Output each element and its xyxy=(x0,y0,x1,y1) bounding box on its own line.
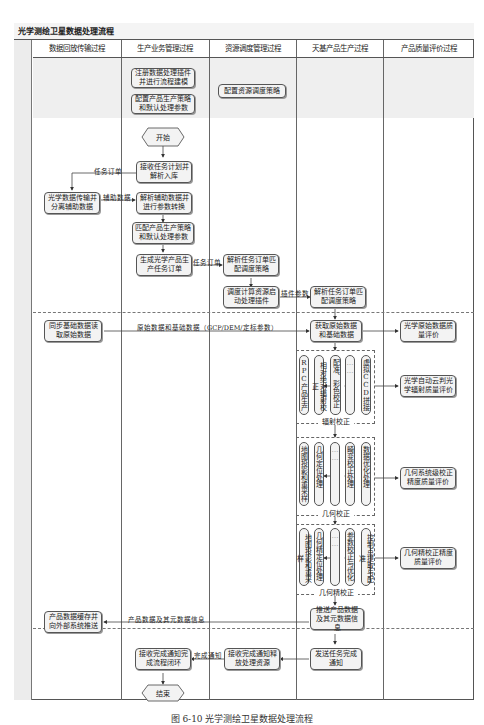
group-step: 畸变校正处理 xyxy=(345,442,355,506)
radiometric-group-label: 辐射校正 xyxy=(318,416,354,425)
eval-raw-step: 光学原始数据质量评价 xyxy=(400,320,456,342)
config-strategy-step: 配置产品生产策略和默认处理参数 xyxy=(131,94,195,114)
push-product-step: 推送产品数据及其元数据信息 xyxy=(310,608,364,630)
get-raw-step: 获取原始数据和基础数据 xyxy=(310,320,362,342)
group-step: …… xyxy=(330,442,340,506)
group-step: 虚拟CCD拼接 xyxy=(361,355,371,415)
recv-release-step: 接收完成通知释放处理资源 xyxy=(224,648,280,670)
group-step: …… xyxy=(345,355,355,415)
match-strategy-step: 匹配产品生产策略和默认处理参数 xyxy=(132,222,194,244)
fine-geometric-group-label: 几何精校正 xyxy=(314,587,358,596)
group-step: RPC产品生产 xyxy=(299,355,309,415)
edge-label-task-order: 任务订单 xyxy=(193,257,221,267)
figure-caption: 图 6-10 光学测绘卫星数据处理流程 xyxy=(0,712,484,725)
parse-order-production-step: 解析任务订单匹配调度策略 xyxy=(310,286,366,308)
group-step: …… xyxy=(330,528,340,586)
eval-radiometric-step: 光学自动云判光学辐射质量评价 xyxy=(400,375,456,397)
parse-order-resource-step: 解析任务订单匹配调度策略 xyxy=(223,254,279,276)
transmit-split-step: 光学数据传输并分离辅助数据 xyxy=(44,192,100,214)
group-step: 控制点提取与配准 xyxy=(361,528,371,586)
store-push-step: 产品数据缓存并向外部系统推送 xyxy=(44,611,102,633)
end-terminal: 结束 xyxy=(148,687,178,699)
group-step: 相对绝对辐射校正 xyxy=(314,355,324,415)
config-resource-step: 配置资源调度策略 xyxy=(218,84,286,98)
geometric-group-label: 几何校正 xyxy=(318,508,354,517)
group-step: 配准、彩色校正 xyxy=(330,355,341,415)
edge-label-done-notice: 完成通知 xyxy=(194,650,222,660)
group-step: 几何精定位处理 xyxy=(314,528,324,586)
receive-plan-step: 接收任务计划并解析入库 xyxy=(136,161,192,183)
edge-label-raw-base: 原始数据和基础数据（GCP/DEM/定标参数） xyxy=(137,322,278,332)
edge-label-product-meta: 产品数据及其元数据信息 xyxy=(128,614,205,624)
eval-geo-sys-step: 几何系统级校正精度质量评价 xyxy=(400,467,456,489)
group-step: 地图投影和重采样 xyxy=(299,528,309,586)
group-step: 地图投影和重采样 xyxy=(299,442,309,506)
sync-base-step: 同步基础数据读取原始数据 xyxy=(44,320,102,342)
start-terminal: 开始 xyxy=(148,130,178,144)
eval-geo-fine-step: 几何精校正精度质量评价 xyxy=(400,547,456,569)
edge-label-aux-data: 辅助数据 xyxy=(103,192,131,202)
recv-close-step: 接收完成通知完成流程闭环 xyxy=(135,648,191,670)
gen-order-step: 生成光学产品生产任务订单 xyxy=(136,254,192,276)
edge-label-plugin-params: 插件参数 xyxy=(281,288,309,298)
register-plugin-step: 注册数据处理插件并进行流程建模 xyxy=(131,68,195,88)
dispatch-resource-step: 调度计算资源启动处理插件 xyxy=(223,286,279,308)
group-step: 参数校正与优化 xyxy=(345,528,355,586)
parse-aux-step: 解析辅助数据并进行参数转换 xyxy=(136,192,192,214)
group-step: 几何定位处理 xyxy=(314,442,324,506)
group-step: 数据优化处理 xyxy=(361,442,371,506)
send-done-step: 发送任务完成通知 xyxy=(310,648,362,670)
edge-label-task-order: 任务订单 xyxy=(94,166,122,176)
